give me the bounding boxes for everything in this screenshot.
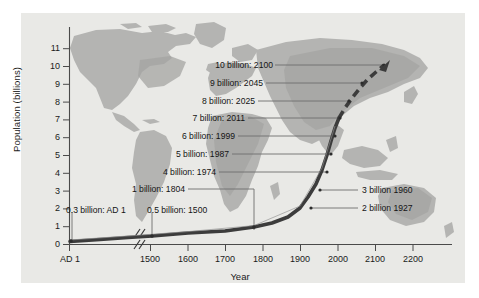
y-tick-label-10: 10: [38, 62, 60, 71]
annotation-9-billion-2045: 9 billion: 2045: [191, 78, 263, 88]
x-axis-title: Year: [180, 271, 300, 282]
y-axis-ticks: [63, 49, 70, 245]
annotation-0-3-billion-ad1: 0.3 billion: AD 1: [66, 205, 126, 215]
population-curve-highlight: [70, 126, 335, 240]
x-tick-label-1700: 1700: [205, 255, 245, 264]
y-tick-label-3: 3: [38, 187, 60, 196]
annotation-0-5-billion-1500: 0.5 billion: 1500: [147, 205, 207, 215]
population-chart-figure: 0 1 2 3 4 5 6 7 8 9 10 11 AD 1 1500 1600…: [0, 0, 479, 298]
y-tick-label-7: 7: [38, 115, 60, 124]
x-axis-break-marks: [134, 229, 145, 249]
y-tick-label-8: 8: [38, 98, 60, 107]
annotation-5-billion-1987: 5 billion: 1987: [157, 149, 229, 159]
annotation-8-billion-2025: 8 billion: 2025: [183, 96, 255, 106]
annotation-1-billion-1804: 1 billion: 1804: [113, 184, 185, 194]
x-tick-label-ad1: AD 1: [50, 255, 90, 264]
x-tick-label-1900: 1900: [280, 255, 320, 264]
x-tick-label-2000: 2000: [318, 255, 358, 264]
y-tick-label-5: 5: [38, 151, 60, 160]
x-tick-label-2200: 2200: [393, 255, 433, 264]
y-tick-label-1: 1: [38, 222, 60, 231]
x-tick-label-1500: 1500: [130, 255, 170, 264]
y-tick-label-4: 4: [38, 169, 60, 178]
x-tick-label-1600: 1600: [168, 255, 208, 264]
y-tick-label-11: 11: [38, 44, 60, 53]
x-tick-label-1800: 1800: [243, 255, 283, 264]
annotation-2-billion-1927: 2 billion 1927: [362, 203, 413, 213]
annotation-6-billion-1999: 6 billion: 1999: [163, 131, 235, 141]
y-tick-label-0: 0: [38, 240, 60, 249]
annotation-4-billion-1974: 4 billion: 1974: [144, 167, 216, 177]
x-axis-ticks: [70, 245, 414, 252]
annotation-10-billion-2100: 10 billion: 2100: [196, 60, 273, 70]
y-tick-label-2: 2: [38, 204, 60, 213]
annotation-7-billion-2011: 7 billion: 2011: [173, 113, 245, 123]
y-axis-title: Population (billions): [11, 50, 22, 170]
y-tick-label-9: 9: [38, 80, 60, 89]
x-tick-label-2100: 2100: [355, 255, 395, 264]
y-tick-label-6: 6: [38, 133, 60, 142]
annotation-3-billion-1960: 3 billion 1960: [362, 185, 413, 195]
